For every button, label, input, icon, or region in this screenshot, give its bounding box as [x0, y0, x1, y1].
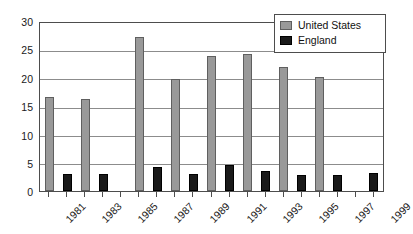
x-tick-1985 — [120, 192, 121, 197]
bar-us-1983 — [81, 99, 90, 191]
y-tick-label: 20 — [0, 73, 33, 85]
x-tick-1991 — [229, 192, 230, 197]
y-tick-label: 15 — [0, 101, 33, 113]
x-tick-1998 — [355, 192, 356, 197]
bar-england-1987 — [153, 167, 162, 191]
x-tick-1994 — [283, 192, 284, 197]
legend-item-united-states: United States — [280, 18, 380, 33]
x-axis-tick-labels: 1981198319851987198919911993199519971999 — [0, 198, 397, 234]
legend-label-england: England — [298, 35, 337, 46]
x-tick-1993 — [265, 192, 266, 197]
bar-england-1995 — [297, 175, 306, 191]
x-tick-1995 — [301, 192, 302, 197]
x-tick-1982 — [66, 192, 67, 197]
bar-us-1981 — [45, 97, 54, 191]
bar-england-1984 — [99, 174, 108, 191]
x-tick-label-1989: 1989 — [207, 200, 232, 225]
y-tick-label: 10 — [0, 130, 33, 142]
x-tick-1989 — [192, 192, 193, 197]
bar-england-1993 — [261, 171, 270, 191]
x-tick-1990 — [211, 192, 212, 197]
bar-us-1992 — [243, 54, 252, 191]
x-tick-label-1985: 1985 — [135, 200, 160, 225]
x-tick-label-1995: 1995 — [316, 200, 341, 225]
chart-legend: United States England — [274, 14, 386, 53]
y-tick-label: 5 — [0, 158, 33, 170]
x-tick-1988 — [174, 192, 175, 197]
y-tick-label: 25 — [0, 44, 33, 56]
bar-england-1989 — [189, 174, 198, 191]
x-tick-1981 — [48, 192, 49, 197]
x-tick-label-1997: 1997 — [352, 200, 377, 225]
legend-label-united-states: United States — [298, 20, 361, 31]
x-tick-label-1999: 1999 — [388, 200, 413, 225]
bar-us-1986 — [135, 37, 144, 191]
x-tick-1996 — [319, 192, 320, 197]
x-tick-1984 — [102, 192, 103, 197]
x-tick-1986 — [138, 192, 139, 197]
x-tick-label-1987: 1987 — [171, 200, 196, 225]
bar-us-1994 — [279, 67, 288, 191]
bar-us-1990 — [207, 56, 216, 191]
legend-item-england: England — [280, 33, 380, 48]
x-tick-1987 — [156, 192, 157, 197]
bar-us-1996 — [315, 77, 324, 191]
bar-england-1997 — [333, 175, 342, 191]
x-tick-label-1993: 1993 — [279, 200, 304, 225]
y-tick-label: 30 — [0, 16, 33, 28]
x-tick-label-1981: 1981 — [63, 200, 88, 225]
x-tick-1997 — [337, 192, 338, 197]
legend-swatch-icon-united-states — [280, 21, 292, 30]
bar-england-1982 — [63, 174, 72, 191]
bar-us-1988 — [171, 79, 180, 191]
bar-england-1999 — [369, 173, 378, 191]
x-tick-label-1991: 1991 — [243, 200, 268, 225]
x-tick-1992 — [247, 192, 248, 197]
x-tick-1999 — [373, 192, 374, 197]
legend-swatch-icon-england — [280, 36, 292, 45]
y-tick-label: 0 — [0, 186, 33, 198]
bar-england-1991 — [225, 165, 234, 191]
x-tick-1983 — [84, 192, 85, 197]
x-tick-label-1983: 1983 — [99, 200, 124, 225]
